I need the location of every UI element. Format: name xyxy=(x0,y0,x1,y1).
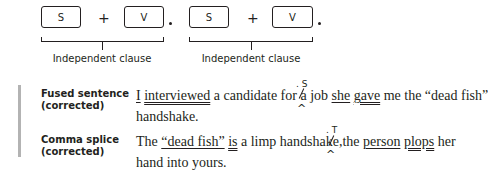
insert-period-capital-mark: . S xyxy=(296,80,307,89)
subject-word: “dead fish” xyxy=(161,134,224,149)
label-line: (corrected) xyxy=(41,100,129,112)
period-1 xyxy=(169,22,172,25)
clause-label-1: Independent clause xyxy=(32,53,172,64)
subject-label: S xyxy=(206,12,212,23)
example-line-2: hand into yours. xyxy=(136,152,456,173)
sidebar-bar xyxy=(18,85,21,157)
example-text-fused: I interviewed a candidate for a job she … xyxy=(136,85,488,127)
verb-label: V xyxy=(289,12,296,23)
example-label-splice: Comma splice (corrected) xyxy=(41,134,119,158)
period-2 xyxy=(318,22,321,25)
insert-period-capital-mark: . T xyxy=(326,126,337,135)
label-line: Comma splice xyxy=(41,134,119,146)
text: her xyxy=(434,134,455,149)
verb-box-1: V xyxy=(124,6,164,28)
subject-word: she xyxy=(332,88,351,103)
text: me the “dead fish” xyxy=(380,88,488,103)
example-text-splice: The “dead fish” is a limp handshake,the … xyxy=(136,131,456,173)
text: a candidate for a job xyxy=(210,88,331,103)
subject-box-1: S xyxy=(41,6,81,28)
text: the xyxy=(342,134,359,149)
text: a limp handshake xyxy=(237,134,338,149)
subject-word: I xyxy=(136,88,141,103)
subject-word: person xyxy=(363,134,400,149)
example-label-fused: Fused sentence (corrected) xyxy=(41,88,129,112)
example-line-1: I interviewed a candidate for a job she … xyxy=(136,85,488,106)
verb-label: V xyxy=(141,12,148,23)
label-line: (corrected) xyxy=(41,146,119,158)
verb-box-2: V xyxy=(272,6,313,28)
verb-word: plops xyxy=(404,134,434,149)
bracket-stem-2 xyxy=(251,42,252,50)
caret-icon: ^ xyxy=(326,149,335,160)
plus-sign-1: + xyxy=(98,11,110,25)
subject-label: S xyxy=(58,12,64,23)
caret-icon: ^ xyxy=(297,103,306,114)
text: The xyxy=(136,134,161,149)
clause-label-2: Independent clause xyxy=(181,53,321,64)
label-line: Fused sentence xyxy=(41,88,129,100)
example-line-2: handshake. xyxy=(136,106,488,127)
subject-box-2: S xyxy=(189,6,229,28)
verb-word: interviewed xyxy=(144,88,210,103)
bracket-stem-1 xyxy=(102,42,103,50)
example-line-1: The “dead fish” is a limp handshake,the … xyxy=(136,131,456,152)
plus-sign-2: + xyxy=(247,11,259,25)
verb-word: gave xyxy=(354,88,380,103)
